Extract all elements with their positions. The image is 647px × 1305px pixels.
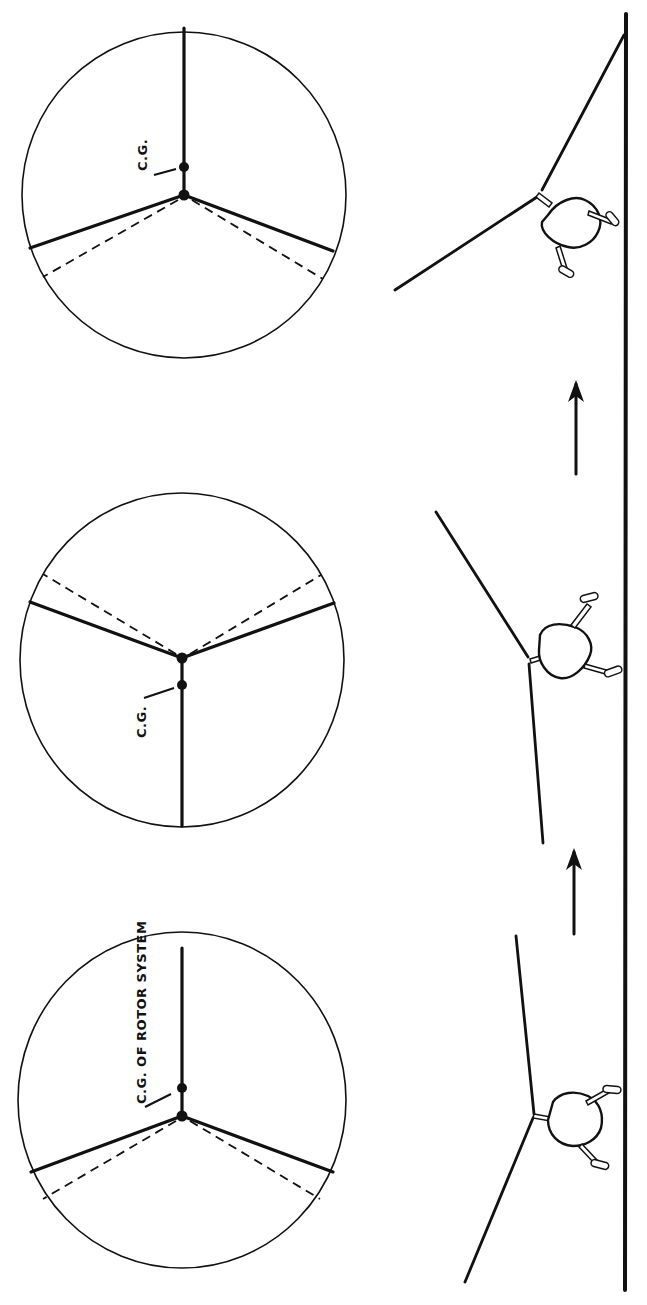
ground-resonance-diagram: C.G. C.G. C.G. OF ROTOR SYSTEM bbox=[0, 0, 647, 1305]
rotor-blade-lower bbox=[465, 1118, 533, 1282]
hub-dot bbox=[179, 190, 190, 201]
blade-2 bbox=[31, 1116, 182, 1172]
direction-arrow-1 bbox=[568, 380, 584, 474]
skid-upper bbox=[580, 592, 599, 603]
rotor-disc-1: C.G. bbox=[22, 28, 346, 358]
rotor-blade-upper bbox=[436, 512, 528, 657]
blade-3 bbox=[184, 195, 333, 251]
fuselage bbox=[539, 624, 591, 678]
ground-line bbox=[625, 14, 626, 1290]
landing-strut-upper bbox=[571, 604, 591, 628]
rotor-blade-upper bbox=[516, 936, 534, 1114]
cg-dot bbox=[177, 1083, 187, 1093]
rotor-blade-right bbox=[542, 35, 624, 190]
blade-3 bbox=[182, 1116, 333, 1172]
blade-2-lagged-dashed bbox=[43, 200, 178, 277]
cg-of-rotor-system-label: C.G. OF ROTOR SYSTEM bbox=[134, 921, 149, 1104]
rotor-disc-2: C.G. bbox=[20, 493, 344, 827]
hub-dot bbox=[177, 1111, 188, 1122]
cg-dot bbox=[179, 162, 189, 172]
cg-label: C.G. bbox=[134, 706, 149, 738]
skid-upper bbox=[603, 1085, 622, 1094]
helicopter-1 bbox=[395, 35, 624, 290]
helicopter-2 bbox=[436, 512, 623, 843]
skid-lower bbox=[604, 665, 623, 678]
rotor-blade-left bbox=[395, 197, 537, 290]
cg-leader-line bbox=[154, 169, 176, 175]
cg-dot bbox=[177, 680, 187, 690]
hub-dot bbox=[177, 653, 188, 664]
blade-3 bbox=[182, 603, 334, 658]
blade-2 bbox=[30, 602, 182, 658]
rotor-blade-lower bbox=[529, 664, 543, 843]
skid-front bbox=[605, 210, 621, 227]
cg-leader-line bbox=[144, 688, 174, 698]
direction-arrow-2 bbox=[566, 848, 582, 934]
skid-lower bbox=[590, 1159, 609, 1170]
mast bbox=[536, 193, 552, 207]
rotor-disc-3: C.G. OF ROTOR SYSTEM bbox=[18, 921, 346, 1268]
helicopter-3 bbox=[465, 936, 621, 1282]
cg-label: C.G. bbox=[135, 139, 150, 171]
